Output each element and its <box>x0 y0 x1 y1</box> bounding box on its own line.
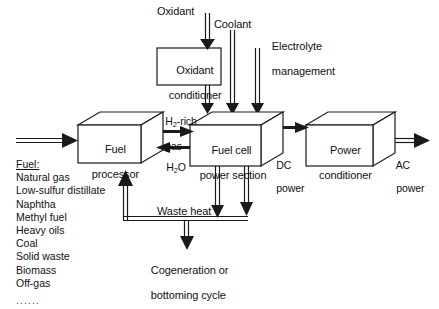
fuel-item: Naphtha <box>16 198 105 211</box>
power-conditioner-line2: conditioner <box>319 169 372 181</box>
water-pre: H <box>166 161 173 173</box>
label-cogeneration: Cogeneration or bottoming cycle <box>139 252 228 309</box>
fuel-item: Solid waste <box>16 250 105 263</box>
h2-rich-post: -rich <box>177 115 197 127</box>
fuel-input-arrow <box>16 133 78 148</box>
fuel-item: Heavy oils <box>16 224 105 237</box>
oxidant-conditioner-line1: Oxidant <box>176 64 213 76</box>
label-dc-power: DC power <box>265 148 304 207</box>
fuel-item: Methyl fuel <box>16 211 105 224</box>
label-coolant: Coolant <box>214 18 251 30</box>
label-water: H2O <box>155 150 186 187</box>
label-waste-heat: Waste heat <box>157 205 211 217</box>
cogeneration-arrow <box>180 220 194 250</box>
fuel-item: Biomass <box>16 264 105 277</box>
dc-power-line1: DC <box>276 159 291 171</box>
fuel-cell-power-section-label: Fuel cell power section <box>188 132 263 194</box>
label-electrolyte-management: Electrolyte management <box>260 28 335 90</box>
fuel-cell-line2: power section <box>200 169 267 181</box>
water-post: O <box>178 161 186 173</box>
fuel-list-ellipsis: ...... <box>16 294 105 307</box>
label-ac-power: AC power <box>385 148 424 207</box>
oxidant-conditioner-line2: conditioner <box>169 89 222 101</box>
power-conditioner-label: Power conditioner <box>305 132 374 194</box>
ac-power-line1: AC <box>396 159 410 171</box>
fuel-item: Off-gas <box>16 277 105 290</box>
diagram-canvas: Oxidant Coolant Electrolyte management O… <box>0 0 439 309</box>
fuel-input-list: Fuel: Natural gas Low-sulfur distillate … <box>16 158 105 307</box>
fuel-processor-line1: Fuel <box>105 143 126 155</box>
fuel-item: Coal <box>16 237 105 250</box>
h2-rich-pre: H <box>165 115 172 127</box>
fuel-list-heading: Fuel: <box>16 158 105 171</box>
fuel-item: Low-sulfur distillate <box>16 184 105 197</box>
power-conditioner-line1: Power <box>330 144 361 156</box>
dc-power-line2: power <box>276 182 304 194</box>
cogeneration-line2: bottoming cycle <box>151 289 226 301</box>
label-oxidant: Oxidant <box>157 5 194 17</box>
fuel-item: Natural gas <box>16 171 105 184</box>
oxidant-flow-arrow <box>200 13 215 50</box>
coolant-flow-arrow <box>226 30 239 115</box>
label-electrolyte-line2: management <box>272 65 335 77</box>
cogeneration-line1: Cogeneration or <box>151 264 228 276</box>
fuel-cell-line1: Fuel cell <box>211 144 251 156</box>
ac-power-arrow <box>395 133 430 148</box>
label-electrolyte-line1: Electrolyte <box>272 40 322 52</box>
ac-power-line2: power <box>396 182 424 194</box>
